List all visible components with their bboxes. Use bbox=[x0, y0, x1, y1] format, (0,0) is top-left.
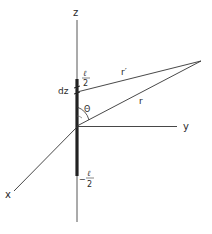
theta-label: Θ bbox=[84, 105, 90, 114]
rod-bottom-numerator: ℓ bbox=[87, 169, 91, 178]
z-axis-label: z bbox=[73, 7, 78, 18]
rod-bottom-denominator: 2 bbox=[87, 180, 92, 189]
rod-top-denominator: 2 bbox=[83, 79, 88, 88]
r-prime-vector bbox=[77, 61, 201, 92]
rod-top-numerator: ℓ bbox=[83, 69, 87, 78]
y-axis-label: y bbox=[183, 121, 189, 132]
r-vector bbox=[77, 61, 201, 126]
dipole-diagram: z y x ℓ 2 dz − ℓ 2 r′ r Θ bbox=[0, 0, 212, 234]
x-axis-label: x bbox=[5, 189, 11, 200]
dz-label: dz bbox=[58, 86, 69, 96]
x-axis bbox=[14, 127, 77, 191]
rod-bottom-sign: − bbox=[79, 175, 86, 184]
r-prime-label: r′ bbox=[121, 67, 127, 77]
r-label: r bbox=[139, 96, 143, 106]
